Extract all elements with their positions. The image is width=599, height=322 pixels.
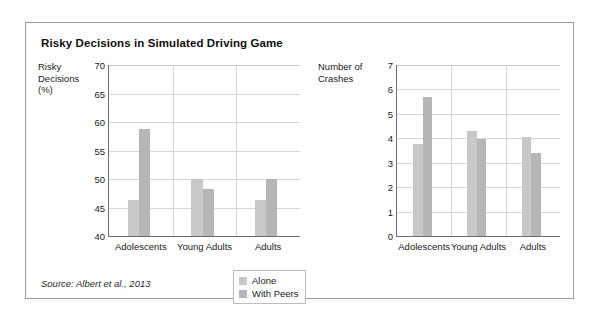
legend-item-with-peers: With Peers [239,287,298,300]
bar-with-peers-young-adults [203,189,214,236]
category-separator-line [236,65,237,236]
y-axis-title-left: Risky Decisions (%) [38,61,100,96]
x-axis-tick-label: Young Adults [177,241,232,252]
bar-with-peers-adolescents [423,97,433,236]
gridline [397,65,560,66]
bar-alone-young-adults [191,179,202,236]
bar-alone-adults [255,200,266,236]
y-axis-tick-label: 45 [94,202,105,213]
bar-alone-adolescents [128,200,139,236]
gridline [109,94,300,95]
x-axis-tick-label: Young Adults [451,241,506,252]
bar-with-peers-adults [531,153,541,236]
y-axis-tick-label: 7 [388,60,393,71]
category-separator-line [173,65,174,236]
bar-with-peers-adults [266,179,277,236]
y-axis-tick-label: 6 [388,84,393,95]
category-separator-line [451,65,452,236]
bar-alone-adults [522,137,532,236]
y-axis-tick-label: 55 [94,145,105,156]
legend: Alone With Peers [233,270,306,304]
source-note: Source: Albert et al., 2013 [41,278,151,289]
plot-area-right: 01234567AdolescentsYoung AdultsAdults [396,65,560,237]
x-axis-tick-label: Adults [520,241,546,252]
x-axis-tick-label: Adolescents [398,241,450,252]
y-axis-tick-label: 40 [94,231,105,242]
legend-label-with-peers: With Peers [252,288,298,299]
category-separator-line [506,65,507,236]
y-axis-tick-label: 65 [94,88,105,99]
gridline [397,114,560,115]
x-axis-tick-label: Adults [255,241,281,252]
legend-swatch-alone [239,277,247,285]
legend-swatch-with-peers [239,290,247,298]
legend-item-alone: Alone [239,274,298,287]
y-axis-tick-label: 1 [388,206,393,217]
y-axis-tick-label: 0 [388,231,393,242]
y-axis-tick-label: 4 [388,133,393,144]
y-axis-tick-label: 70 [94,60,105,71]
chart-panel-right: Number of Crashes 01234567AdolescentsYou… [316,61,566,261]
bar-with-peers-adolescents [139,129,150,236]
legend-label-alone: Alone [252,275,276,286]
plot-area-left: 40455055606570AdolescentsYoung AdultsAdu… [108,65,300,237]
y-axis-tick-label: 60 [94,117,105,128]
x-axis-tick-label: Adolescents [115,241,167,252]
figure-title: Risky Decisions in Simulated Driving Gam… [41,37,283,49]
y-axis-title-right: Number of Crashes [318,61,388,84]
figure-frame: Risky Decisions in Simulated Driving Gam… [25,22,574,299]
bar-alone-adolescents [413,144,423,236]
bar-alone-young-adults [467,131,477,236]
gridline [397,89,560,90]
bar-with-peers-young-adults [477,139,487,236]
gridline [109,65,300,66]
gridline [109,122,300,123]
chart-panel-left: Risky Decisions (%) 40455055606570Adoles… [36,61,306,261]
gridline [109,151,300,152]
y-axis-tick-label: 50 [94,174,105,185]
y-axis-tick-label: 5 [388,108,393,119]
y-axis-tick-label: 2 [388,182,393,193]
y-axis-tick-label: 3 [388,157,393,168]
